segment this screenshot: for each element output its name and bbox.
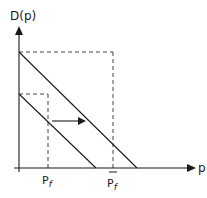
x-axis-arrow-icon xyxy=(187,164,196,172)
dashed-guides xyxy=(19,52,113,168)
x-axis xyxy=(14,164,196,172)
left-pf-sub: f xyxy=(49,179,54,189)
y-axis-label: D(p) xyxy=(10,9,36,23)
demand-shift-diagram: D(p) p Pf Pf xyxy=(0,0,207,198)
x-axis-label: p xyxy=(198,161,206,175)
shift-arrow-icon xyxy=(52,117,86,125)
right-pf-label: Pf xyxy=(107,177,119,192)
demand-curve-original xyxy=(19,94,96,168)
y-axis xyxy=(15,26,23,172)
left-pf-label: Pf xyxy=(42,174,54,189)
y-axis-arrow-icon xyxy=(15,26,23,35)
right-pf-sub: f xyxy=(114,182,119,192)
